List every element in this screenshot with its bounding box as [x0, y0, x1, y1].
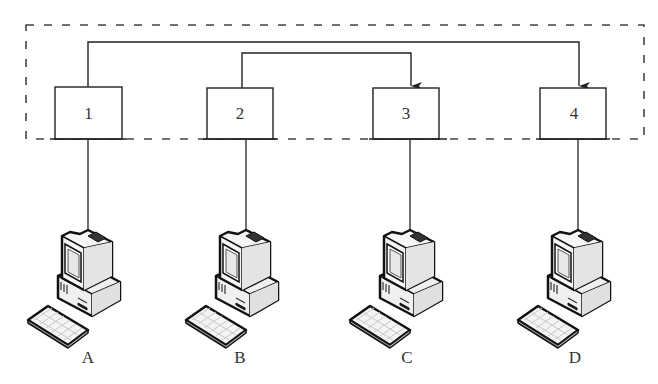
- node-label-1: 1: [84, 104, 93, 123]
- connection-1-to-4: [88, 42, 579, 87]
- network-diagram: 1 2 3 4 A B C D: [0, 0, 658, 384]
- computer-label-C: C: [401, 348, 412, 367]
- node-label-2: 2: [236, 104, 245, 123]
- computer-label-D: D: [569, 348, 581, 367]
- node-box-2: 2: [207, 88, 273, 139]
- computer-C: C: [350, 230, 442, 367]
- computer-A: A: [28, 230, 120, 367]
- node-box-3: 3: [373, 88, 439, 139]
- connection-2-to-3: [242, 53, 411, 88]
- computer-B: B: [186, 230, 278, 367]
- desktop-computer-icon: [28, 230, 120, 348]
- computer-D: D: [518, 230, 610, 367]
- computer-label-B: B: [234, 348, 245, 367]
- computer-label-A: A: [82, 348, 95, 367]
- desktop-computer-icon: [518, 230, 610, 348]
- desktop-computer-icon: [350, 230, 442, 348]
- node-box-1: 1: [55, 87, 122, 139]
- node-box-4: 4: [540, 88, 606, 139]
- node-label-3: 3: [402, 104, 411, 123]
- desktop-computer-icon: [186, 230, 278, 348]
- node-label-4: 4: [570, 104, 579, 123]
